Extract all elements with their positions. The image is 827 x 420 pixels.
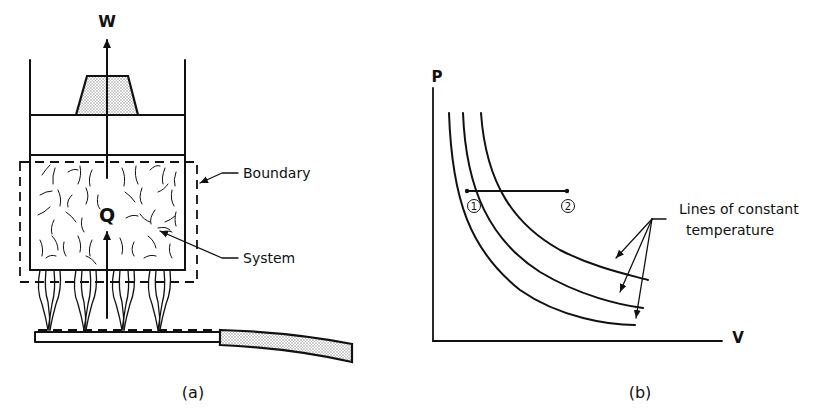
work-label: W bbox=[98, 12, 116, 31]
panel-b: P V 1 2 Lines of constant temperature (b… bbox=[432, 68, 800, 402]
isotherm-low bbox=[449, 113, 635, 325]
isotherm-mid bbox=[463, 113, 643, 308]
state-marker-2: 2 bbox=[562, 200, 575, 213]
boundary-leader bbox=[200, 173, 238, 183]
panel-a: W Q bbox=[20, 12, 352, 402]
annotation-line-1: Lines of constant bbox=[679, 201, 799, 217]
isotherm-high bbox=[481, 113, 648, 280]
svg-text:1: 1 bbox=[471, 201, 477, 212]
flame-1 bbox=[38, 270, 60, 330]
burner-flames bbox=[38, 270, 170, 330]
x-axis-label: V bbox=[732, 329, 744, 347]
state-point-1-dot bbox=[465, 189, 469, 193]
y-axis-label: P bbox=[432, 68, 443, 86]
system-leader bbox=[160, 231, 238, 258]
svg-text:2: 2 bbox=[565, 201, 571, 212]
figure-canvas: W Q bbox=[0, 0, 827, 420]
flame-3 bbox=[112, 270, 134, 330]
system-label: System bbox=[243, 250, 295, 266]
caption-b: (b) bbox=[629, 383, 652, 402]
burner bbox=[35, 332, 220, 342]
flame-2 bbox=[74, 270, 96, 330]
annotation-line-2: temperature bbox=[686, 222, 774, 238]
annotation-leaders bbox=[616, 219, 666, 318]
state-point-2-dot bbox=[565, 189, 569, 193]
heat-label: Q bbox=[99, 204, 115, 226]
boundary-label: Boundary bbox=[243, 165, 310, 181]
state-marker-1: 1 bbox=[468, 200, 481, 213]
caption-a: (a) bbox=[182, 383, 204, 402]
gas-hose bbox=[220, 330, 352, 362]
flame-4 bbox=[148, 270, 170, 330]
